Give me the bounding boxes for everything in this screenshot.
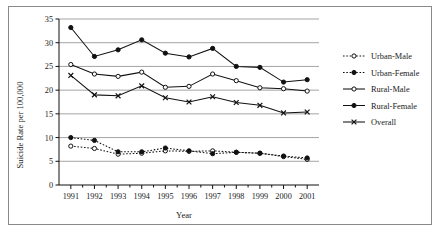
- x-tick-label-1991: 1991: [63, 192, 79, 201]
- legend-label-3: Rural-Female: [371, 102, 417, 111]
- datapoint-2-8: [258, 86, 262, 90]
- y-tick-label-35: 35: [45, 15, 53, 24]
- y-tick-label-20: 20: [45, 86, 53, 95]
- legend-label-1: Urban-Female: [371, 69, 420, 78]
- datapoint-4-0: [68, 73, 73, 78]
- datapoint-2-2: [116, 74, 120, 78]
- datapoint-1-3: [140, 150, 144, 154]
- legend-entry-2[interactable]: Rural-Male: [343, 85, 410, 94]
- datapoint-3-6: [211, 46, 215, 50]
- legend-label-4: Overall: [371, 118, 397, 127]
- data-series: [68, 25, 309, 161]
- datapoint-1-4: [163, 146, 167, 150]
- datapoint-3-0: [69, 25, 73, 29]
- datapoint-1-8: [258, 151, 262, 155]
- y-tick-label-5: 5: [49, 157, 53, 166]
- chart-area: 05101520253035 1991199219931994199519961…: [9, 7, 433, 226]
- gridlines: [59, 19, 319, 161]
- datapoint-2-5: [187, 84, 191, 88]
- datapoint-3-3: [140, 38, 144, 42]
- x-tick-label-1992: 1992: [86, 192, 102, 201]
- legend-entry-1[interactable]: Urban-Female: [343, 69, 420, 78]
- datapoint-3-7: [234, 64, 238, 68]
- figure-frame: 05101520253035 1991199219931994199519961…: [8, 6, 432, 225]
- datapoint-2-3: [140, 70, 144, 74]
- datapoint-0-1: [92, 146, 96, 150]
- legend-entry-3[interactable]: Rural-Female: [343, 102, 417, 111]
- datapoint-0-0: [69, 144, 73, 148]
- x-tick-label-2001: 2001: [299, 192, 315, 201]
- x-tick-label-1999: 1999: [252, 192, 268, 201]
- datapoint-4-3: [139, 83, 144, 88]
- datapoint-3-10: [305, 78, 309, 82]
- datapoint-1-7: [234, 150, 238, 154]
- legend-entry-0[interactable]: Urban-Male: [343, 52, 412, 61]
- x-axis-ticks: 1991199219931994199519961997199819992000…: [63, 185, 316, 201]
- datapoint-3-9: [281, 80, 285, 84]
- line-chart: 05101520253035 1991199219931994199519961…: [9, 7, 433, 226]
- x-tick-label-1993: 1993: [110, 192, 126, 201]
- x-tick-label-1998: 1998: [228, 192, 244, 201]
- legend-entry-4[interactable]: Overall: [343, 118, 397, 127]
- datapoint-2-9: [281, 87, 285, 91]
- x-tick-label-1997: 1997: [204, 192, 220, 201]
- legend-marker-1: [352, 70, 356, 74]
- legend-marker-2: [352, 87, 356, 91]
- legend: Urban-MaleUrban-FemaleRural-MaleRural-Fe…: [343, 52, 420, 127]
- datapoint-3-5: [187, 55, 191, 59]
- legend-label-2: Rural-Male: [371, 85, 410, 94]
- datapoint-3-4: [163, 51, 167, 55]
- y-tick-label-30: 30: [45, 39, 53, 48]
- datapoint-3-1: [92, 54, 96, 58]
- datapoint-1-2: [116, 150, 120, 154]
- datapoint-1-6: [211, 152, 215, 156]
- y-tick-label-0: 0: [49, 181, 53, 190]
- datapoint-3-2: [116, 48, 120, 52]
- datapoint-2-6: [211, 72, 215, 76]
- legend-marker-0: [352, 54, 356, 58]
- y-tick-label-25: 25: [45, 62, 53, 71]
- y-tick-label-15: 15: [45, 110, 53, 119]
- datapoint-1-0: [69, 135, 73, 139]
- x-tick-label-2000: 2000: [275, 192, 291, 201]
- datapoint-1-10: [305, 156, 309, 160]
- x-tick-label-1995: 1995: [157, 192, 173, 201]
- datapoint-2-1: [92, 72, 96, 76]
- datapoint-1-5: [187, 149, 191, 153]
- legend-label-0: Urban-Male: [371, 52, 412, 61]
- datapoint-1-9: [281, 154, 285, 158]
- y-axis-title: Suicide Rate per 100,000: [15, 82, 25, 169]
- x-axis-title: Year: [176, 210, 192, 220]
- datapoint-2-4: [163, 85, 167, 89]
- datapoint-3-8: [258, 65, 262, 69]
- y-tick-label-10: 10: [45, 134, 53, 143]
- x-tick-label-1996: 1996: [181, 192, 197, 201]
- legend-marker-3: [352, 103, 356, 107]
- datapoint-1-1: [92, 138, 96, 142]
- datapoint-2-7: [234, 79, 238, 83]
- series-overall: [68, 73, 309, 115]
- datapoint-2-0: [69, 62, 73, 66]
- series-urban-female: [69, 135, 310, 160]
- series-line-4: [71, 75, 307, 112]
- datapoint-2-10: [305, 89, 309, 93]
- x-tick-label-1994: 1994: [134, 192, 150, 201]
- series-rural-male: [69, 62, 310, 93]
- y-axis-ticks: 05101520253035: [45, 15, 59, 190]
